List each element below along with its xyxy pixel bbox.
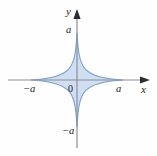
origin-label: 0 [68, 84, 73, 94]
x-positive-tick-label: a [116, 84, 121, 95]
astroid-plot-svg [0, 0, 157, 156]
x-negative-tick-label: −a [23, 84, 35, 95]
y-axis-arrowhead [73, 9, 80, 19]
y-positive-tick-label: a [66, 25, 71, 36]
x-axis-label: x [141, 84, 146, 95]
astroid-figure: y x a −a a −a 0 [0, 0, 157, 156]
y-negative-tick-label: −a [62, 126, 74, 137]
y-axis-label: y [66, 6, 71, 17]
